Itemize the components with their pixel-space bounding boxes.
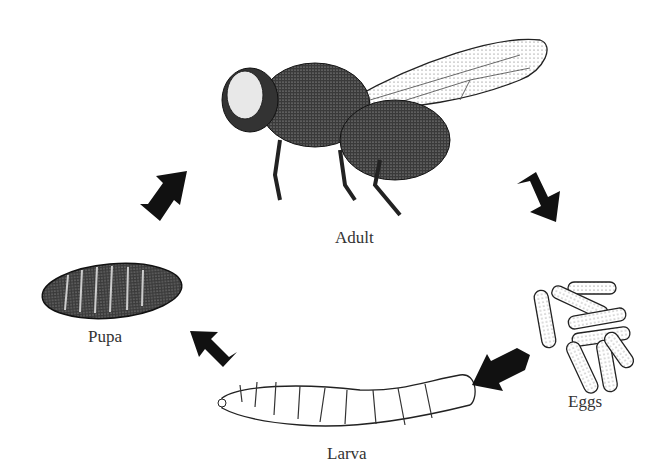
label-larva: Larva [327, 444, 367, 464]
label-adult: Adult [335, 228, 374, 248]
arrow-larva-to-pupa [190, 331, 237, 367]
adult-fly-illustration [222, 39, 547, 215]
larva-illustration [218, 375, 475, 426]
eggs-illustration [533, 282, 636, 395]
arrow-adult-to-eggs [517, 172, 560, 222]
label-pupa: Pupa [88, 327, 122, 347]
arrow-pupa-to-adult [140, 171, 187, 221]
arrow-eggs-to-larva [472, 348, 530, 391]
pupa-illustration [40, 258, 184, 324]
label-eggs: Eggs [568, 392, 602, 412]
life-cycle-diagram: Adult Eggs Larva Pupa [0, 0, 672, 473]
